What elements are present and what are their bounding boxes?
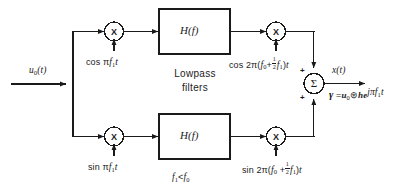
frequency-condition-label: f1<f0 [172, 173, 190, 183]
input-signal-label: u0(t) [29, 66, 47, 76]
multiplier-symbol-top-baseband: X [108, 27, 120, 37]
output-signal-label: x(t) [332, 66, 346, 76]
summer-sign-top: + [300, 66, 305, 75]
output-equation-label: γ =u0⊛hejπf1t [329, 88, 384, 101]
multiplier-symbol-top-rf: X [270, 27, 282, 37]
filter-label-top: H(f) [180, 25, 198, 36]
carrier-label-top-baseband: cos πf1t [86, 58, 118, 68]
signal-flow-diagram: X X X X Σ + + u0(t) x(t) γ =u0⊛hejπf1t H… [0, 0, 403, 195]
summer-symbol: Σ [307, 77, 321, 89]
lowpass-caption-line1: Lowpass [157, 67, 233, 81]
carrier-label-bottom-baseband: sin πf1t [88, 163, 118, 173]
carrier-label-top-rf: cos 2π(f0+12f1)t [229, 56, 289, 71]
carrier-label-bottom-rf: sin 2π(f0 +12f1)t [242, 161, 302, 176]
summer-sign-bottom: + [300, 93, 305, 102]
multiplier-symbol-bottom-rf: X [270, 132, 282, 142]
lowpass-filters-caption: Lowpass filters [157, 67, 233, 94]
lowpass-caption-line2: filters [157, 81, 233, 95]
filter-label-bottom: H(f) [180, 130, 198, 141]
multiplier-symbol-bottom-baseband: X [108, 132, 120, 142]
